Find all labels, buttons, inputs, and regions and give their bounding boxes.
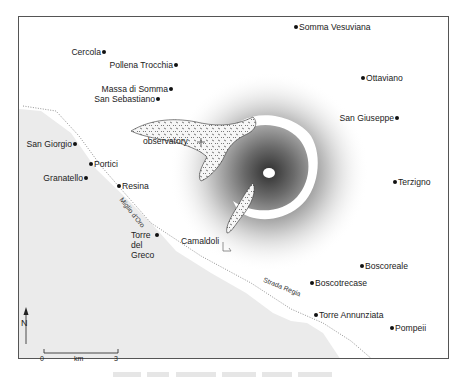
town-dot — [169, 87, 173, 91]
town-label: Somma Vesuviana — [299, 22, 371, 32]
town-dot — [84, 176, 88, 180]
town-dot — [73, 142, 77, 146]
scale-start: 0 — [40, 354, 44, 364]
town-label: Pollena Trocchia — [109, 60, 173, 70]
observatory-label: observatory — [143, 136, 188, 146]
town-dot — [89, 162, 93, 166]
crater — [263, 168, 275, 178]
tdg-line-2: del — [131, 240, 142, 250]
town-label: San Giuseppe — [340, 113, 394, 123]
town-label: Boscotrecase — [315, 278, 367, 288]
town-label: Boscoreale — [365, 261, 408, 271]
map-frame — [18, 16, 449, 359]
town-dot — [156, 97, 160, 101]
town-label: Resina — [122, 181, 149, 191]
caption-word — [176, 372, 216, 377]
town-dot — [395, 116, 399, 120]
town-dot — [361, 76, 365, 80]
caption-word — [298, 372, 332, 377]
town-dot — [174, 63, 178, 67]
caption-word — [262, 372, 292, 377]
map-graphic — [19, 17, 449, 359]
town-dot — [393, 180, 397, 184]
caption-word — [147, 372, 169, 377]
town-label: Portici — [94, 159, 118, 169]
caption-word — [222, 372, 256, 377]
tdg-line-3: Greco — [131, 250, 154, 260]
town-dot — [102, 50, 106, 54]
town-label: Pompeii — [395, 323, 426, 333]
town-dot — [310, 281, 314, 285]
town-label: San Sebastiano — [94, 94, 155, 104]
town-label: San Giorgio — [27, 139, 72, 149]
town-dot — [117, 184, 121, 188]
town-label: Torre Annunziata — [319, 310, 384, 320]
town-dot — [314, 313, 318, 317]
scale-unit: km — [74, 354, 83, 364]
town-dot — [294, 25, 298, 29]
town-label: Terzigno — [398, 177, 430, 187]
north-label: N — [21, 318, 28, 328]
town-label: Cercola — [71, 47, 101, 57]
town-label: Massa di Somma — [102, 84, 168, 94]
caption-word — [113, 372, 141, 377]
tdg-line-1: Torre — [131, 230, 151, 240]
scale-end: 3 — [114, 354, 118, 364]
town-label: Granatello — [43, 173, 83, 183]
town-dot — [360, 264, 364, 268]
torre-del-greco-dot — [155, 233, 159, 237]
town-label: Ottaviano — [366, 73, 403, 83]
camaldoli-label: Camaldoli — [181, 236, 219, 246]
town-dot — [390, 326, 394, 330]
